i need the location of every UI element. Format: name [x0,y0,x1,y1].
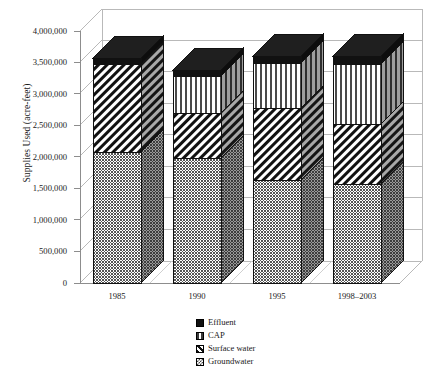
y-axis [74,31,80,283]
bar-1995 [253,34,323,283]
legend-item-cap: CAP [196,329,255,342]
legend-label: Effluent [208,318,236,327]
segment-surface-water [173,113,221,158]
legend-label: Groundwater [208,357,253,366]
segment-surface-water [93,64,141,152]
stacked-column-chart: Supplies Used (acre-feet) 4,000,000 3,50… [0,0,425,381]
segment-effluent [93,58,141,64]
segment-surface-water [253,108,301,180]
legend-label: Surface water [208,344,255,353]
chart-legend: Effluent CAP Surface water Groundwater [196,316,255,368]
segment-cap [173,76,221,113]
checker-dot-swatch [196,358,204,366]
bar-1985 [93,36,163,283]
segment-effluent [333,56,381,64]
diagonal-hatch-swatch [196,345,204,353]
segment-groundwater [93,152,141,283]
segment-surface-water [333,124,381,184]
segment-cap [333,64,381,124]
legend-item-surface-water: Surface water [196,342,255,355]
x-tick-label-1985: 1985 [93,292,141,301]
segment-groundwater [253,180,301,283]
bar-1990 [173,48,243,283]
solid-black-swatch [196,319,204,327]
x-tick-label-1990: 1990 [173,292,221,301]
legend-item-groundwater: Groundwater [196,355,255,368]
legend-item-effluent: Effluent [196,316,255,329]
bar-1998-2003 [333,34,403,283]
x-tick-label-1995: 1995 [253,292,301,301]
vertical-stripe-swatch [196,332,204,340]
segment-effluent [173,70,221,76]
segment-effluent [253,56,301,63]
segment-cap [253,63,301,108]
segment-groundwater [173,158,221,283]
segment-groundwater [333,184,381,283]
x-tick-label-1998-2003: 1998–2003 [325,292,389,301]
legend-label: CAP [208,331,225,340]
